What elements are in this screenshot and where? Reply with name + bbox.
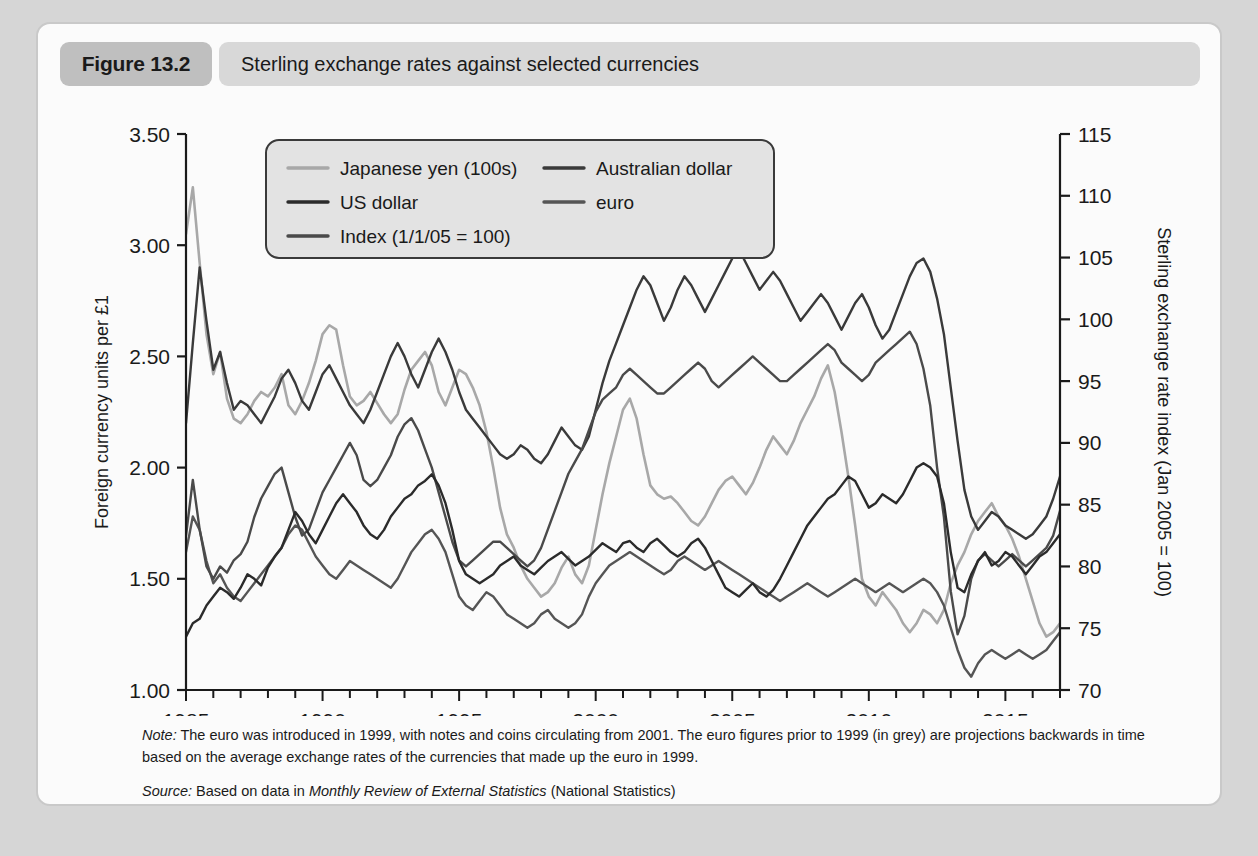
y-tick-label-right: 70	[1078, 679, 1101, 702]
legend-label: Australian dollar	[596, 158, 733, 179]
figure-number-badge: Figure 13.2	[60, 42, 212, 86]
source-label: Source:	[142, 783, 192, 799]
y-tick-label-left: 2.50	[129, 345, 170, 368]
x-tick-label: 1985	[163, 709, 210, 716]
y-tick-label-left: 1.00	[129, 679, 170, 702]
y-tick-label-left: 1.50	[129, 567, 170, 590]
source-line: Source: Based on data in Monthly Review …	[142, 780, 1152, 802]
y-tick-label-right: 85	[1078, 493, 1101, 516]
y-tick-label-left: 2.00	[129, 456, 170, 479]
figure-card: Figure 13.2 Sterling exchange rates agai…	[36, 22, 1222, 806]
x-tick-label: 1990	[299, 709, 346, 716]
y-tick-label-right: 80	[1078, 555, 1101, 578]
y-tick-label-right: 115	[1078, 123, 1111, 146]
note-label: Note:	[142, 727, 177, 743]
y-tick-label-right: 90	[1078, 431, 1101, 454]
y-axis-left-title: Foreign currency units per £1	[92, 295, 112, 529]
y-tick-label-left: 3.00	[129, 234, 170, 257]
x-tick-label: 2000	[572, 709, 619, 716]
note-body: The euro was introduced in 1999, with no…	[142, 727, 1145, 765]
x-tick-label: 2005	[709, 709, 756, 716]
figure-footnotes: Note: The euro was introduced in 1999, w…	[142, 724, 1152, 802]
legend-label: euro	[596, 192, 634, 213]
source-prefix: Based on data in	[192, 783, 309, 799]
chart-legend[interactable]: Japanese yen (100s)US dollarIndex (1/1/0…	[266, 140, 774, 258]
x-tick-label: 1995	[436, 709, 483, 716]
source-publication: Monthly Review of External Statistics	[309, 783, 547, 799]
figure-title: Sterling exchange rates against selected…	[219, 42, 1200, 86]
exchange-rate-line-chart: 1.001.502.002.503.003.50 707580859095100…	[60, 96, 1200, 716]
legend-label: Index (1/1/05 = 100)	[340, 226, 511, 247]
figure-header: Figure 13.2 Sterling exchange rates agai…	[60, 42, 1200, 86]
y-axis-right-title: Sterling exchange rate index (Jan 2005 =…	[1154, 227, 1174, 597]
y-tick-label-right: 95	[1078, 370, 1101, 393]
x-tick-label: 2010	[845, 709, 892, 716]
y-tick-label-right: 105	[1078, 246, 1113, 269]
y-tick-label-left: 3.50	[129, 123, 170, 146]
y-tick-label-right: 100	[1078, 308, 1113, 331]
note-line: Note: The euro was introduced in 1999, w…	[142, 724, 1152, 768]
legend-label: Japanese yen (100s)	[340, 158, 517, 179]
y-tick-label-right: 75	[1078, 617, 1101, 640]
source-suffix: (National Statistics)	[547, 783, 676, 799]
legend-label: US dollar	[340, 192, 419, 213]
y-tick-label-right: 110	[1078, 184, 1111, 207]
x-tick-label: 2015	[982, 709, 1029, 716]
chart-area: 1.001.502.002.503.003.50 707580859095100…	[60, 96, 1200, 716]
